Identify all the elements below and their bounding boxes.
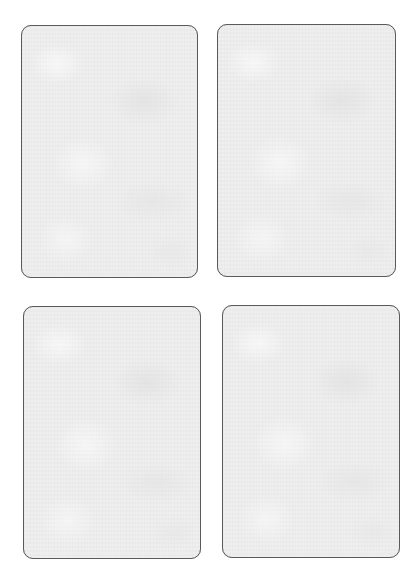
card-bottom-left	[23, 306, 201, 559]
card-top-left	[21, 25, 198, 278]
card-bottom-right	[222, 305, 400, 558]
card-top-right	[217, 24, 396, 277]
